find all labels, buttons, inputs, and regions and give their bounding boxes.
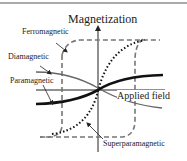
- x-axis-label: Applied field: [117, 90, 170, 101]
- label-ferromagnetic: Ferromagnetic: [22, 27, 69, 36]
- label-paramagnetic: Paramagnetic: [10, 76, 54, 85]
- label-diamagnetic: Diamagnetic: [8, 52, 49, 61]
- diagram-title: Magnetization: [68, 12, 137, 27]
- label-superparamagnetic: Superparamagnetic: [103, 139, 165, 148]
